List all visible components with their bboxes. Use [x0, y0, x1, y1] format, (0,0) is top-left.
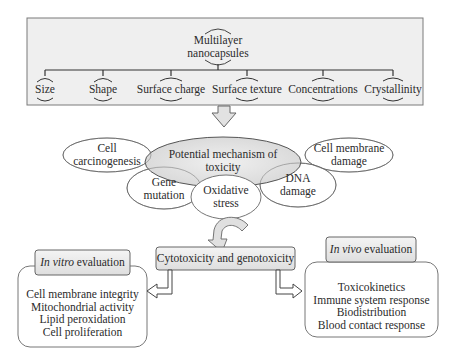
- root-line2: nanocapsules: [178, 47, 258, 60]
- dna-damage-label: DNA damage: [263, 172, 333, 198]
- in-vivo-item: Biodistribution: [305, 306, 438, 319]
- in-vitro-item: Cell membrane integrity: [18, 288, 147, 301]
- in-vivo-item: Blood contact response: [305, 319, 438, 332]
- in-vivo-title-italic: In vivo: [330, 243, 362, 255]
- gene-mutation-line1: Gene: [129, 176, 199, 189]
- down-arrow-icon: [212, 106, 236, 127]
- dna-damage-line1: DNA: [263, 172, 333, 185]
- in-vitro-title-rest: evaluation: [74, 256, 125, 268]
- in-vivo-item: Immune system response: [305, 294, 438, 307]
- in-vitro-item: Lipid peroxidation: [18, 313, 147, 326]
- cell-membrane-damage-label: Cell membrane damage: [309, 142, 389, 168]
- oxidative-stress-line2: stress: [191, 197, 261, 210]
- oxidative-stress-label: Oxidative stress: [191, 184, 261, 210]
- left-elbow-arrow-icon: [147, 270, 172, 298]
- cell-carcinogenesis-line2: carcinogenesis: [67, 155, 147, 168]
- property-size: Size: [25, 83, 65, 96]
- dna-damage-line2: damage: [263, 185, 333, 198]
- in-vivo-list: Toxicokinetics Immune system response Bi…: [305, 281, 438, 331]
- cytotoxicity-label: Cytotoxicity and genotoxicity: [156, 252, 295, 264]
- in-vitro-title-italic: In vitro: [40, 256, 74, 268]
- right-elbow-arrow-icon: [276, 270, 302, 298]
- in-vivo-title-rest: evaluation: [361, 243, 412, 255]
- gene-mutation-line2: mutation: [129, 189, 199, 202]
- property-concentrations: Concentrations: [283, 83, 363, 96]
- in-vitro-item: Cell proliferation: [18, 326, 147, 339]
- in-vitro-item: Mitochondrial activity: [18, 301, 147, 314]
- root-line1: Multilayer: [178, 34, 258, 47]
- in-vitro-title: In vitro evaluation: [35, 256, 130, 268]
- gene-mutation-label: Gene mutation: [129, 176, 199, 202]
- root-node-label: Multilayer nanocapsules: [178, 34, 258, 60]
- in-vivo-title: In vivo evaluation: [326, 243, 416, 255]
- property-crystallinity: Crystallinity: [358, 83, 428, 96]
- cell-membrane-damage-line1: Cell membrane: [309, 142, 389, 155]
- mechanism-center-label: Potential mechanism of toxicity: [163, 148, 283, 174]
- mechanism-center-line1: Potential mechanism of: [163, 148, 283, 161]
- in-vitro-list: Cell membrane integrity Mitochondrial ac…: [18, 288, 147, 338]
- property-shape: Shape: [78, 83, 128, 96]
- property-surface-texture: Surface texture: [207, 83, 287, 96]
- cell-membrane-damage-line2: damage: [309, 155, 389, 168]
- property-surface-charge: Surface charge: [131, 83, 211, 96]
- oxidative-stress-line1: Oxidative: [191, 184, 261, 197]
- in-vivo-item: Toxicokinetics: [305, 281, 438, 294]
- cell-carcinogenesis-line1: Cell: [67, 142, 147, 155]
- cell-carcinogenesis-label: Cell carcinogenesis: [67, 142, 147, 168]
